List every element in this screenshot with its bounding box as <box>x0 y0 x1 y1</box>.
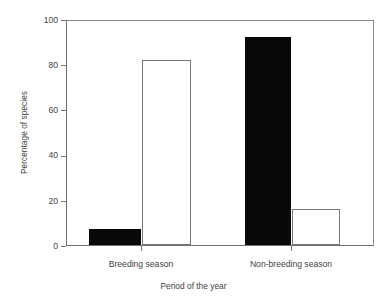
y-tick-mark-0 <box>61 246 66 247</box>
x-tick-mark-breeding-season <box>141 246 142 251</box>
bar-breeding-season-open <box>142 60 191 245</box>
bar-non-breeding-season-open <box>292 209 340 245</box>
y-tick-label-20: 20 <box>32 197 58 206</box>
x-tick-label-non-breeding-season: Non-breeding season <box>250 259 332 269</box>
y-tick-label-40: 40 <box>32 151 58 160</box>
x-tick-label-breeding-season: Breeding season <box>109 259 174 269</box>
plot-area <box>66 20 374 246</box>
bar-chart-figure: Percentage of species 100 80 60 40 20 0 … <box>0 0 387 299</box>
y-tick-label-100: 100 <box>32 16 58 25</box>
x-tick-mark-non-breeding-season <box>291 246 292 251</box>
y-axis-title: Percentage of species <box>20 53 29 213</box>
y-tick-label-60: 60 <box>32 106 58 115</box>
y-tick-label-80: 80 <box>32 61 58 70</box>
bar-non-breeding-season-filled <box>245 37 291 245</box>
y-tick-label-0: 0 <box>32 242 58 251</box>
x-axis-title: Period of the year <box>0 281 387 291</box>
bar-breeding-season-filled <box>89 229 141 245</box>
y-axis-tick-labels: 100 80 60 40 20 0 <box>30 0 58 299</box>
